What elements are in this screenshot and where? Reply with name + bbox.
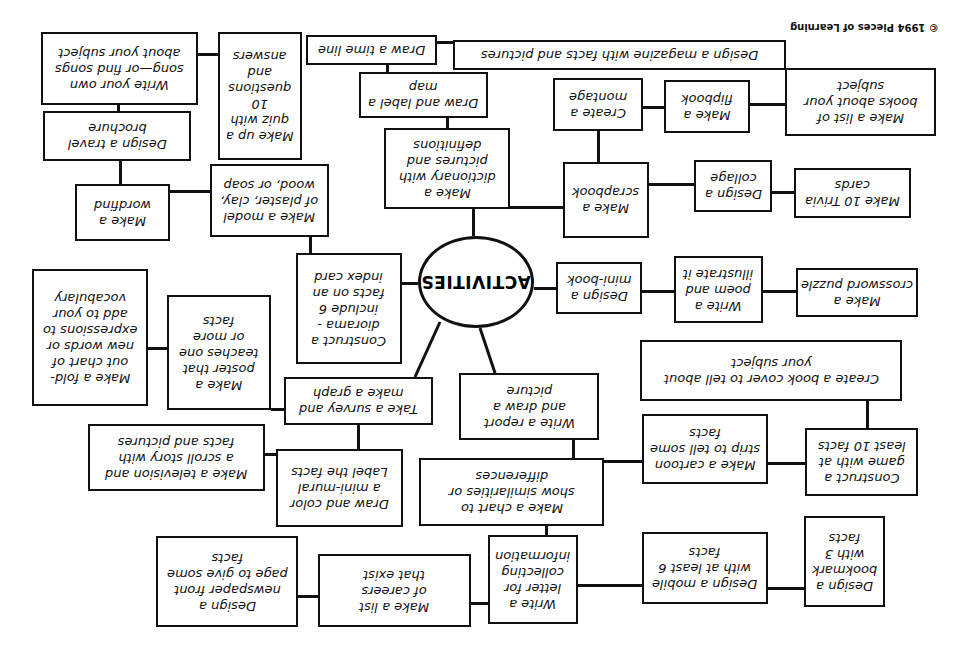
activity-text: Take a survey and make a graph xyxy=(299,385,418,417)
activity-text: Make a list of books about your subject xyxy=(804,78,917,126)
activity-box: Make a scrapbook xyxy=(563,162,649,238)
activity-text: Design a mobile with at least 6 facts xyxy=(652,544,757,592)
activity-text: Construct a diorama - include 6 facts on… xyxy=(311,269,386,349)
activity-box: Make a flipbook xyxy=(664,80,750,133)
activity-box: Make a crossword puzzle xyxy=(796,268,918,317)
activity-text: Create a book cover to tell about your s… xyxy=(664,355,879,387)
activity-box: Make a model of plaster, clay, wood, or … xyxy=(210,164,329,237)
activity-box: Write a report and draw a picture xyxy=(459,373,599,440)
activity-text: Make a fold- out chart of new words or e… xyxy=(43,290,138,386)
activity-box: Make a list of books about your subject xyxy=(785,68,936,136)
activity-box: Draw and label a map xyxy=(359,72,488,118)
activity-text: Make a wordfind xyxy=(94,197,151,229)
activity-box: Make a television and a scroll story wit… xyxy=(88,424,265,491)
activity-box: Make a chart to show similarities or dif… xyxy=(419,458,604,526)
activity-text: Make a television and a scroll story wit… xyxy=(105,434,247,482)
activity-box: Write your own song—or find songs about … xyxy=(41,32,198,105)
activity-text: Make a scrapbook xyxy=(572,184,639,216)
activity-box: Design a collage xyxy=(694,160,772,212)
activity-text: Make a model of plaster, clay, wood, or … xyxy=(220,177,318,225)
activity-text: Make a cartoon strip to tell some facts xyxy=(650,425,760,473)
activity-text: Make up a quiz with 10 questions and ans… xyxy=(226,48,293,144)
activity-text: Design a collage xyxy=(705,170,762,202)
activity-box: Design a bookmark with 3 facts xyxy=(804,516,885,607)
center-node: ACTIVITIES xyxy=(418,236,534,328)
activity-text: Write a letter for collecting informatio… xyxy=(495,548,570,612)
activity-text: Draw and color a mini-mural Label the fa… xyxy=(290,464,389,512)
activity-text: Draw and label a map xyxy=(368,79,478,111)
activity-text: Draw a time line xyxy=(318,42,425,58)
activity-box: Design a mobile with at least 6 facts xyxy=(642,532,768,604)
diagonal-connector xyxy=(415,322,440,377)
activity-text: Design a mini-book xyxy=(567,272,632,304)
activity-box: Make a cartoon strip to tell some facts xyxy=(642,414,768,484)
activity-box: Write a letter for collecting informatio… xyxy=(488,535,578,624)
activity-text: Construct a game with at least 10 facts xyxy=(818,438,906,486)
activity-text: Design a magazine with facts and picture… xyxy=(481,47,758,63)
activity-text: Make 10 Trivia cards xyxy=(805,177,900,209)
activity-box: Make a fold- out chart of new words or e… xyxy=(32,269,148,406)
activity-box: Draw a time line xyxy=(306,35,437,65)
activity-box: Design a newspaper front page to give so… xyxy=(156,536,298,627)
activity-text: Make a dictionary with pictures and defi… xyxy=(399,137,496,201)
activity-text: Write a poem and illustrate it xyxy=(683,266,753,314)
activity-box: Design a mini-book xyxy=(556,262,642,314)
activity-text: Design a bookmark with 3 facts xyxy=(812,530,877,594)
diagonal-connector xyxy=(480,328,495,373)
activity-text: Design a travel brochure xyxy=(68,120,167,152)
activity-box: Design a magazine with facts and picture… xyxy=(453,40,786,70)
activity-box: Make a poster that teaches one or more f… xyxy=(167,295,271,410)
activity-text: Create a montage xyxy=(569,89,627,121)
activities-mind-map: © 1994 Pieces of Learning Write your own… xyxy=(0,0,970,667)
activity-box: Make a list of careers that exist xyxy=(318,554,471,627)
activity-box: Take a survey and make a graph xyxy=(284,377,433,425)
activity-text: Design a newspaper front page to give so… xyxy=(167,550,288,614)
activity-text: Make a list of careers that exist xyxy=(359,567,429,615)
activity-box: Construct a diorama - include 6 facts on… xyxy=(296,253,402,364)
activity-box: Create a book cover to tell about your s… xyxy=(640,340,902,401)
activity-box: Construct a game with at least 10 facts xyxy=(805,428,918,496)
activity-box: Make 10 Trivia cards xyxy=(794,168,911,218)
activity-box: Make a wordfind xyxy=(75,184,170,241)
activity-box: Make up a quiz with 10 questions and ans… xyxy=(218,32,302,160)
activity-box: Create a montage xyxy=(553,78,643,131)
activity-text: Write a report and draw a picture xyxy=(484,383,575,431)
activity-box: Draw and color a mini-mural Label the fa… xyxy=(276,449,403,527)
activity-box: Make a dictionary with pictures and defi… xyxy=(384,128,510,209)
activity-text: Write your own song—or find songs about … xyxy=(55,45,184,93)
center-label: ACTIVITIES xyxy=(421,272,531,292)
activity-text: Make a crossword puzzle xyxy=(801,277,913,309)
activity-box: Write a poem and illustrate it xyxy=(674,256,763,323)
activity-box: Design a travel brochure xyxy=(43,111,191,161)
activity-text: Make a chart to show similarities or dif… xyxy=(449,468,575,516)
activity-text: Make a poster that teaches one or more f… xyxy=(179,313,259,393)
activity-text: Make a flipbook xyxy=(681,91,733,123)
